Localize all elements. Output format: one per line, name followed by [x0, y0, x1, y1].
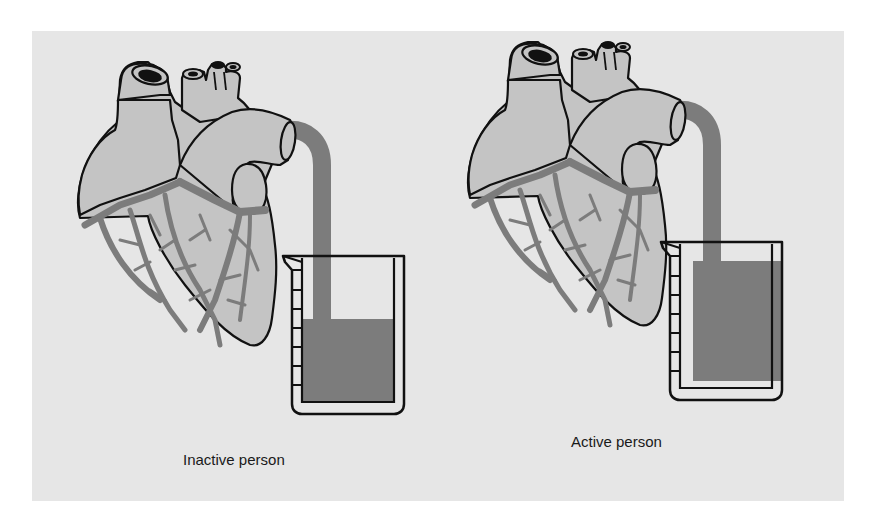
beaker-fluid-active	[693, 261, 783, 381]
caption-active: Active person	[571, 433, 662, 450]
heart-active	[468, 41, 783, 400]
heart-icon	[468, 41, 688, 325]
heart-output-illustration	[0, 0, 874, 530]
heart-inactive	[78, 61, 404, 414]
caption-inactive: Inactive person	[183, 451, 285, 468]
beaker-fluid-inactive	[303, 319, 393, 401]
heart-icon	[78, 61, 298, 345]
